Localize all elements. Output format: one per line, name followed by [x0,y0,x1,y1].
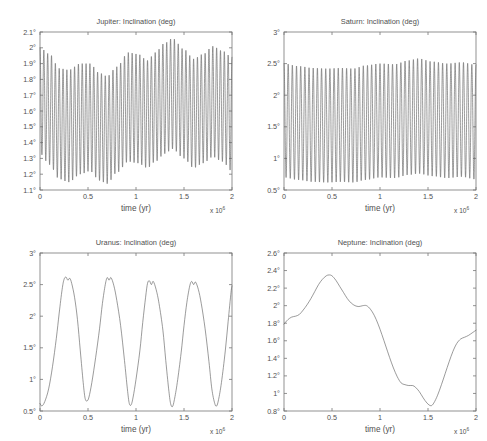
y-tick-label: 2° [29,43,36,52]
y-tick-label: 1.7° [23,91,36,100]
y-tick-label: 1.9° [23,59,36,68]
x-tick-label: 2 [230,413,234,422]
axes-frame [284,32,476,190]
y-tick-label: 3° [29,249,36,258]
y-tick-label: 2.5° [267,59,280,68]
matlab-figure-window: Jupiter: Inclination (deg)1.1°1.2°1.3°1.… [0,0,487,441]
svg-text:x 106: x 106 [454,206,469,214]
x-axis-label: time (yr) [121,425,151,434]
x-tick-label: 2 [474,192,478,201]
y-tick-label: 1.1° [23,186,36,195]
x-axis-exponent: x 106 [210,427,225,435]
y-tick-label: 1.5° [23,343,36,352]
plot-panel-saturn: Saturn: Inclination (deg)0.5°1°1.5°2°2.5… [244,0,487,220]
y-tick-label: 0.8° [267,407,280,416]
x-tick-label: 2 [230,192,234,201]
y-tick-label: 2.1° [23,28,36,37]
x-axis-exponent: x 106 [454,206,469,214]
svg-text:x 106: x 106 [210,427,225,435]
y-tick-label: 1° [273,389,280,398]
svg-text:x 106: x 106 [210,206,225,214]
y-tick-label: 1.6° [267,336,280,345]
x-tick-label: 0.5 [327,413,337,422]
y-tick-label: 2.4° [267,266,280,275]
y-tick-label: 1.8° [267,319,280,328]
chart-title: Jupiter: Inclination (deg) [97,17,176,26]
x-tick-label: 1.5 [179,413,189,422]
x-axis-exponent: x 106 [210,206,225,214]
x-tick-label: 0 [282,413,286,422]
y-tick-label: 0.5° [267,186,280,195]
axes-frame [40,253,232,411]
data-series-line [40,277,232,407]
x-tick-label: 0.5 [83,413,93,422]
y-tick-label: 1.5° [23,122,36,131]
y-tick-label: 1° [29,375,36,384]
y-tick-label: 2° [273,301,280,310]
y-tick-label: 0.5° [23,407,36,416]
x-tick-label: 1 [378,192,382,201]
x-tick-label: 1.5 [179,192,189,201]
y-tick-label: 2.5° [23,280,36,289]
chart-title: Neptune: Inclination (deg) [338,238,423,247]
plot-panel-neptune: Neptune: Inclination (deg)0.8°1°1.2°1.4°… [244,221,487,441]
y-tick-label: 1.4° [23,138,36,147]
y-tick-label: 1.4° [267,354,280,363]
y-tick-label: 1.6° [23,107,36,116]
plot-panel-jupiter: Jupiter: Inclination (deg)1.1°1.2°1.3°1.… [0,0,243,220]
x-axis-label: time (yr) [365,204,395,213]
y-tick-label: 1.5° [267,122,280,131]
x-axis-exponent: x 106 [454,427,469,435]
data-series-line [284,59,476,183]
x-tick-label: 1 [378,413,382,422]
chart-title: Uranus: Inclination (deg) [96,238,177,247]
x-tick-label: 1.5 [423,192,433,201]
y-tick-label: 1.8° [23,75,36,84]
data-series-line [40,39,232,184]
y-tick-label: 1° [273,154,280,163]
x-tick-label: 1.5 [423,413,433,422]
x-tick-label: 1 [134,413,138,422]
y-tick-label: 1.3° [23,154,36,163]
y-tick-label: 2.2° [267,284,280,293]
chart-title: Saturn: Inclination (deg) [341,17,419,26]
svg-text:x 106: x 106 [454,427,469,435]
y-tick-label: 3° [273,28,280,37]
axes-frame [284,253,476,411]
y-tick-label: 2.6° [267,249,280,258]
x-tick-label: 0.5 [327,192,337,201]
x-tick-label: 0 [38,192,42,201]
x-tick-label: 1 [134,192,138,201]
x-tick-label: 0.5 [83,192,93,201]
x-tick-label: 0 [282,192,286,201]
x-tick-label: 0 [38,413,42,422]
plot-panel-uranus: Uranus: Inclination (deg)0.5°1°1.5°2°2.5… [0,221,243,441]
x-tick-label: 2 [474,413,478,422]
x-axis-label: time (yr) [121,204,151,213]
y-tick-label: 2° [273,91,280,100]
x-axis-label: time (yr) [365,425,395,434]
data-series-line [284,275,476,406]
y-tick-label: 2° [29,312,36,321]
y-tick-label: 1.2° [267,371,280,380]
y-tick-label: 1.2° [23,170,36,179]
